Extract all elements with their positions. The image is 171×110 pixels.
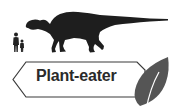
human-scale-figures-icon [13, 33, 24, 53]
illustration [0, 0, 171, 110]
hadrosaur-silhouette-icon [26, 12, 168, 53]
diet-label: Plant-eater [36, 67, 132, 85]
